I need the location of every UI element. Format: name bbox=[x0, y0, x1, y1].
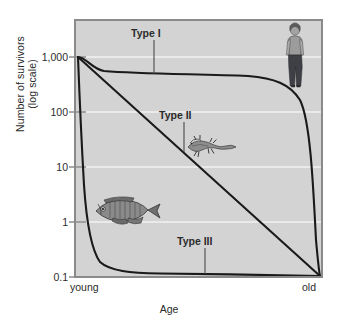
y-tick-label-10: 10 bbox=[24, 161, 68, 173]
y-tick-label-100: 100 bbox=[24, 106, 68, 118]
y-tick-label-1: 1 bbox=[24, 216, 68, 228]
survivorship-curve-figure: Number of survivors (log scale) 1,000 10… bbox=[0, 0, 338, 323]
x-axis-title: Age bbox=[0, 303, 338, 315]
curve-label-type-3: Type III bbox=[177, 235, 212, 247]
y-axis-title-line-2: (log scale) bbox=[26, 59, 38, 109]
curve-label-type-2: Type II bbox=[159, 109, 191, 121]
curve-label-type-1: Type I bbox=[131, 27, 161, 39]
y-tick-label-1000: 1,000 bbox=[24, 51, 68, 63]
y-axis-title: Number of survivors (log scale) bbox=[16, 9, 36, 159]
x-tick-label-old: old bbox=[302, 281, 316, 293]
y-tick-label-0-1: 0.1 bbox=[24, 271, 68, 283]
x-tick-label-young: young bbox=[70, 281, 99, 293]
